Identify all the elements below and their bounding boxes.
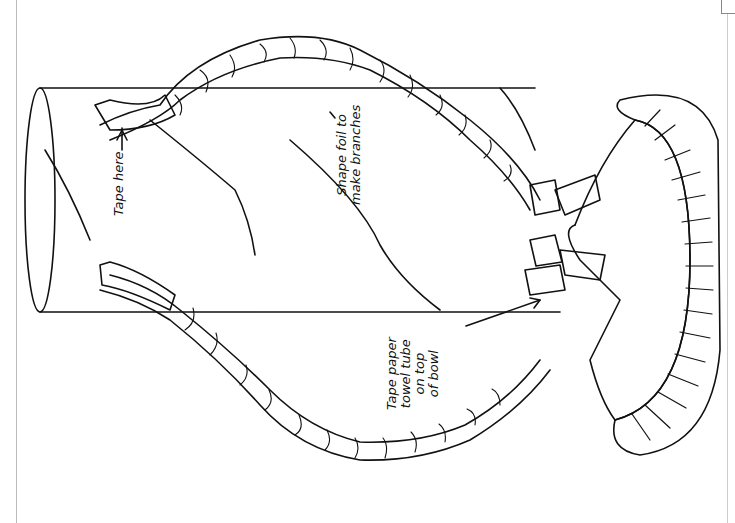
- bowl: [569, 95, 720, 455]
- label-tape-here: Tape here: [112, 151, 126, 216]
- label-tape-tube: Tape paper towel tube on top of bowl: [385, 337, 441, 410]
- label-shape-foil: Shape foil to make branches: [335, 105, 363, 205]
- craft-drawing: [0, 0, 735, 523]
